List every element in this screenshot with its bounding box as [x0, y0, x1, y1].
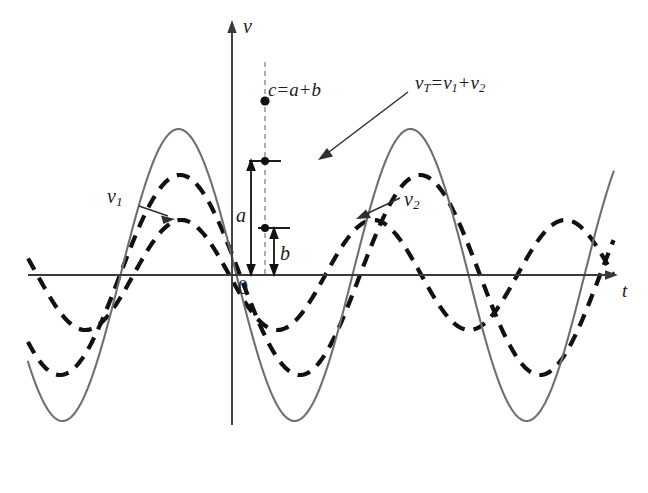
- curve-v1-label: v1: [107, 186, 122, 209]
- v2-leader-line: [364, 198, 400, 215]
- v1-leader-line: [139, 206, 168, 216]
- amplitude-b-label: b: [280, 243, 290, 263]
- total-curve-label: vT=v1+v2: [415, 73, 485, 95]
- origin-label: 0: [238, 277, 248, 297]
- v-axis-label: v: [243, 16, 252, 36]
- leader-lines-group: [139, 92, 408, 224]
- amplitude-a-label: a: [236, 205, 246, 225]
- sum-peak-label: c=a+b: [268, 80, 321, 99]
- dimension-a: [246, 158, 281, 277]
- vt-leader-line: [325, 92, 408, 155]
- axes-group: [28, 20, 618, 425]
- x-axis-arrowhead: [605, 270, 618, 279]
- y-axis-arrowhead: [227, 20, 236, 33]
- t-axis-label: t: [622, 281, 627, 300]
- waveform-addition-figure: [0, 0, 648, 493]
- curve-v2-label: v2: [404, 189, 419, 212]
- a-arrowhead-up: [246, 158, 256, 171]
